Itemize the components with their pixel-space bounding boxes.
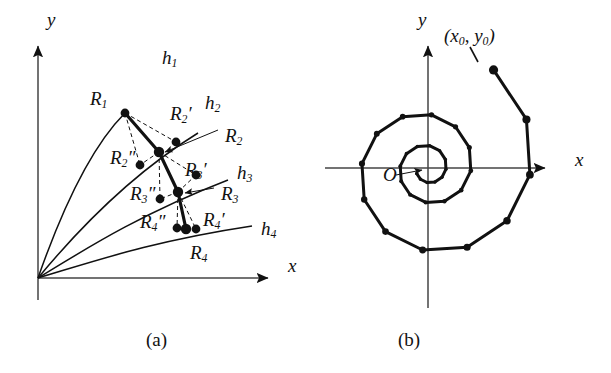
- spiral-node: [459, 188, 464, 193]
- panel-a-point-label-R4-prime: R4′: [203, 210, 225, 232]
- spiral-node: [415, 172, 418, 175]
- label-prime-marks: ′: [203, 159, 207, 180]
- label-subscript: 2: [237, 135, 243, 148]
- node-R2: [154, 147, 164, 157]
- label-prime-marks: ″: [128, 147, 136, 168]
- panel-a-curve-label-h3: h3: [237, 163, 252, 185]
- spiral-node: [425, 181, 428, 184]
- spiral-node: [428, 144, 431, 147]
- panel-a-point-label-R2-prime: R2′: [170, 104, 192, 126]
- label-base: R: [203, 209, 215, 230]
- panel-a-axes: [38, 46, 268, 300]
- start-point-leader-line: [470, 47, 478, 62]
- label-subscript: 4: [271, 228, 277, 241]
- spiral-node: [444, 167, 447, 170]
- panel-b-start-point-label: (x0, y0): [444, 26, 495, 48]
- spiral-node: [361, 196, 367, 202]
- spiral-node: [442, 199, 446, 203]
- label-prime-marks: ″: [148, 183, 156, 204]
- label-base: h: [237, 162, 247, 183]
- label-base: R: [130, 183, 142, 204]
- panel-a-curve-label-h4: h4: [261, 219, 276, 241]
- panel-a-point-label-R2-dprime: R2″: [110, 148, 135, 170]
- panel-a-y-axis-label: y: [47, 10, 55, 29]
- label-base: R: [140, 211, 152, 232]
- node-R3: [173, 187, 183, 197]
- panel-b-y-axis-label: y: [418, 10, 426, 29]
- spiral-node: [526, 171, 534, 179]
- node-R4-prime: [192, 225, 201, 234]
- spiral-node: [419, 247, 426, 254]
- node-R2-prime: [172, 138, 181, 147]
- panel-b-spiral: [359, 65, 534, 253]
- spiral-node: [489, 65, 498, 74]
- spiral-node: [438, 149, 441, 152]
- spiral-node: [416, 145, 420, 149]
- figure-container: y x h1h2h3h4R1R2′R2R2″R3′R3R3″R4′R4″R4 (…: [0, 0, 611, 373]
- spiral-node: [359, 161, 365, 167]
- panel-a-caption: (a): [146, 330, 167, 349]
- spiral-node: [433, 180, 436, 183]
- figure-artwork: [0, 0, 611, 373]
- label-base: h: [205, 92, 215, 113]
- start-label-y-var: y: [474, 25, 482, 46]
- node-R3-dprime: [156, 195, 165, 204]
- label-subscript: 4: [202, 252, 208, 265]
- spiral-node: [503, 217, 510, 224]
- spiral-node: [399, 179, 403, 183]
- label-base: R: [90, 88, 102, 109]
- spiral-node: [522, 115, 530, 123]
- spiral-node: [467, 145, 472, 150]
- panel-a-point-label-R3-prime: R3′: [185, 160, 207, 182]
- curve-h1: [38, 113, 125, 278]
- spiral-node: [464, 244, 471, 251]
- label-subscript: 1: [172, 57, 178, 70]
- spiral-node: [440, 176, 443, 179]
- spiral-node: [382, 228, 389, 235]
- label-base: R: [190, 242, 202, 263]
- label-subscript: 1: [102, 98, 108, 111]
- label-subscript: 3: [247, 172, 253, 185]
- panel-b-axes: [325, 46, 545, 308]
- label-base: R: [185, 159, 197, 180]
- panel-a-curve-label-h1: h1: [162, 48, 177, 70]
- panel-a-point-label-R4: R4: [190, 243, 208, 265]
- spiral-node: [408, 193, 412, 197]
- spiral-node: [374, 131, 380, 137]
- spiral-node: [453, 124, 458, 129]
- label-prime-marks: ′: [221, 209, 225, 230]
- panel-a-point-label-R3: R3: [221, 184, 239, 206]
- label-base: h: [162, 47, 172, 68]
- start-label-separator: ,: [465, 25, 475, 46]
- label-base: R: [225, 125, 237, 146]
- spiral-node: [400, 114, 406, 120]
- panel-b-x-axis-label: x: [575, 150, 583, 169]
- spiral-node: [398, 164, 402, 168]
- panel-b-origin-label: O: [383, 165, 397, 184]
- panel-a-x-axis-label: x: [288, 256, 296, 275]
- panel-a-curve-label-h2: h2: [205, 93, 220, 115]
- node-R4: [181, 224, 191, 234]
- label-prime-marks: ′: [188, 103, 192, 124]
- spiral-node: [424, 200, 428, 204]
- panel-b-caption: (b): [398, 330, 420, 349]
- panel-a-point-label-R4-dprime: R4″: [140, 212, 165, 234]
- label-base: R: [170, 103, 182, 124]
- node-R2-dprime: [136, 161, 145, 170]
- panel-a-point-label-R2: R2: [225, 126, 243, 148]
- spiral-node: [419, 178, 422, 181]
- spiral-node: [405, 152, 409, 156]
- label-prime-marks: ″: [158, 211, 166, 232]
- spiral-node: [468, 168, 473, 173]
- spiral-node: [429, 112, 434, 117]
- label-base: R: [221, 183, 233, 204]
- label-base: h: [261, 218, 271, 239]
- node-R4-dprime: [173, 224, 182, 233]
- label-base: R: [110, 147, 122, 168]
- panel-a-point-label-R3-dprime: R3″: [130, 184, 155, 206]
- label-subscript: 2: [215, 102, 221, 115]
- panel-a-point-label-R1: R1: [90, 89, 108, 111]
- node-R1: [121, 109, 130, 118]
- label-subscript: 3: [233, 193, 239, 206]
- start-label-x-var: x: [450, 25, 458, 46]
